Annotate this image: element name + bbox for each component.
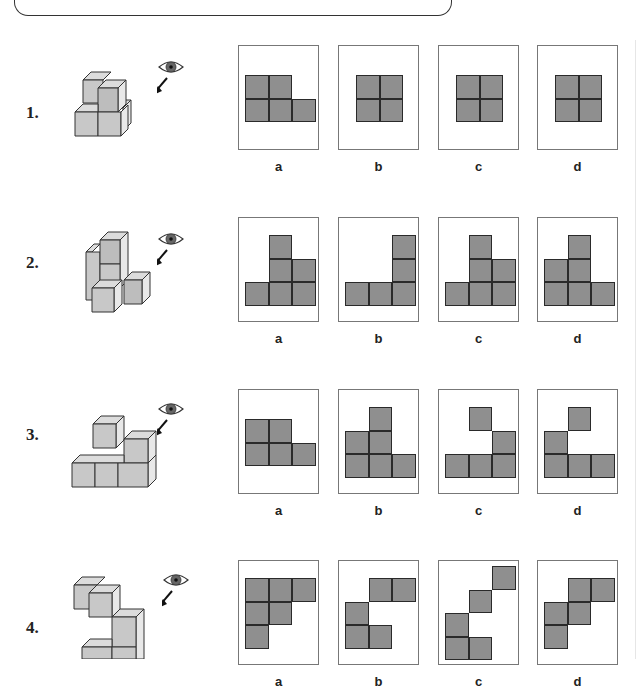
shape-cell [492, 454, 516, 478]
shape-cell [469, 259, 493, 283]
shape-cell [469, 235, 493, 259]
shape-cell [369, 578, 393, 602]
shape-cell [568, 407, 592, 431]
shape-cell [591, 282, 615, 306]
shape-cell [469, 282, 493, 306]
option-2d[interactable] [537, 217, 618, 322]
option-4a[interactable] [238, 560, 319, 665]
shape-cell [591, 578, 615, 602]
page-edge-divider [635, 40, 636, 659]
shape-cell [392, 578, 416, 602]
shape-cell [568, 602, 592, 626]
option-4c[interactable] [438, 560, 519, 665]
option-2c[interactable] [438, 217, 519, 322]
shape-cell [245, 282, 269, 306]
shape-cell [469, 590, 493, 614]
shape-cell [568, 282, 592, 306]
option-2a[interactable] [238, 217, 319, 322]
shape-cell [544, 282, 568, 306]
shape-cell [544, 454, 568, 478]
shape-cell [568, 235, 592, 259]
option-label: c [438, 331, 519, 346]
option-label: c [438, 674, 519, 689]
option-1d[interactable] [537, 45, 618, 150]
option-label: c [438, 159, 519, 174]
option-label: b [338, 674, 419, 689]
shape-cell [579, 75, 603, 99]
option-3d[interactable] [537, 389, 618, 494]
shape-cell [269, 443, 293, 467]
option-3a[interactable] [238, 389, 319, 494]
shape-cell [292, 282, 316, 306]
shape-cell [269, 99, 293, 123]
option-label: a [238, 159, 319, 174]
shape-cell [480, 75, 504, 99]
shape-cell [568, 454, 592, 478]
option-2b[interactable] [338, 217, 419, 322]
option-3b[interactable] [338, 389, 419, 494]
cube-figure-4 [72, 575, 192, 659]
shape-cell [392, 282, 416, 306]
shape-cell [544, 625, 568, 649]
shape-cell [269, 578, 293, 602]
shape-cell [369, 407, 393, 431]
shape-cell [469, 454, 493, 478]
shape-cell [445, 282, 469, 306]
shape-cell [544, 602, 568, 626]
shape-cell [591, 454, 615, 478]
option-1c[interactable] [438, 45, 519, 150]
shape-cell [292, 578, 316, 602]
shape-cell [245, 602, 269, 626]
option-label: b [338, 503, 419, 518]
shape-cell [369, 454, 393, 478]
shape-cell [356, 99, 380, 123]
shape-cell [345, 625, 369, 649]
shape-cell [392, 454, 416, 478]
shape-cell [568, 259, 592, 283]
option-label: b [338, 331, 419, 346]
shape-cell [245, 625, 269, 649]
shape-cell [245, 443, 269, 467]
option-label: d [537, 331, 618, 346]
option-4d[interactable] [537, 560, 618, 665]
shape-cell [392, 259, 416, 283]
option-label: a [238, 331, 319, 346]
option-4b[interactable] [338, 560, 419, 665]
shape-cell [579, 99, 603, 123]
shape-cell [245, 99, 269, 123]
shape-cell [568, 578, 592, 602]
shape-cell [469, 637, 493, 661]
shape-cell [456, 75, 480, 99]
option-label: a [238, 503, 319, 518]
shape-cell [544, 431, 568, 455]
shape-cell [445, 613, 469, 637]
shape-cell [356, 75, 380, 99]
shape-cell [480, 99, 504, 123]
shape-cell [445, 637, 469, 661]
cube-figure-3 [68, 415, 188, 505]
option-1b[interactable] [338, 45, 419, 150]
shape-cell [392, 235, 416, 259]
shape-cell [492, 282, 516, 306]
option-label: a [238, 674, 319, 689]
shape-cell [380, 99, 404, 123]
shape-cell [492, 431, 516, 455]
option-1a[interactable] [238, 45, 319, 150]
shape-cell [369, 625, 393, 649]
shape-cell [292, 443, 316, 467]
question-number: 4. [26, 618, 39, 638]
shape-cell [245, 75, 269, 99]
shape-cell [345, 282, 369, 306]
shape-cell [555, 75, 579, 99]
shape-cell [292, 99, 316, 123]
shape-cell [445, 454, 469, 478]
option-3c[interactable] [438, 389, 519, 494]
shape-cell [269, 602, 293, 626]
option-label: b [338, 159, 419, 174]
cube-figure-1 [70, 55, 190, 155]
question-number: 2. [26, 253, 39, 273]
shape-cell [456, 99, 480, 123]
shape-cell [492, 259, 516, 283]
shape-cell [469, 407, 493, 431]
option-label: c [438, 503, 519, 518]
